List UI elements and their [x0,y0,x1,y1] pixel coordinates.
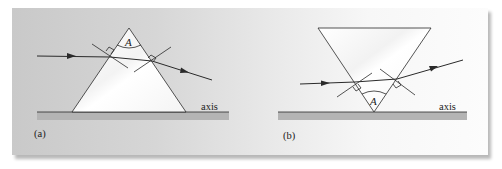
arrow-icon [67,53,76,59]
axis-label: axis [439,101,456,112]
arrow-icon [429,66,438,72]
apex-angle-label: A [124,36,132,48]
panel-caption: (a) [34,128,46,140]
apex-angle-label: A [369,95,377,107]
panel-a: A axis (a) [34,28,229,140]
arrow-icon [321,81,330,87]
arrow-icon [180,68,189,74]
axis-label: axis [201,101,218,112]
axis-bar [37,112,229,120]
prism-diagram: A axis (a) A axis (b) [0,0,502,169]
axis-bar [278,112,467,120]
panel-caption: (b) [283,130,296,142]
panel-b: A axis (b) [278,28,467,142]
